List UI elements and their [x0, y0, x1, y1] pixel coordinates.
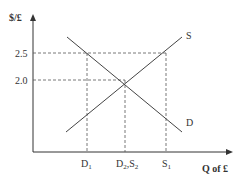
x-axis-arrow-icon	[226, 149, 233, 155]
exchange-rate-chart: $/£ 2.5 2.0 S D D1 D2,S2 S1 Q of £	[0, 0, 243, 178]
tick-2-5: 2.5	[15, 48, 28, 59]
x-tick-s1: S1	[162, 158, 172, 171]
y-axis-label: $/£	[9, 12, 22, 23]
demand-label: D	[186, 117, 193, 128]
x-axis-label: Q of £	[202, 163, 228, 174]
y-axis-arrow-icon	[30, 14, 36, 21]
x-tick-d2s2: D2,S2	[116, 158, 139, 171]
tick-2-0: 2.0	[15, 75, 28, 86]
supply-label: S	[186, 30, 192, 41]
x-tick-d1: D1	[81, 158, 92, 171]
